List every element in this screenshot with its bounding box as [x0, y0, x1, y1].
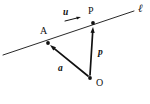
point-label-a: A	[40, 26, 47, 36]
point-marker-o	[88, 76, 92, 80]
diagram-canvas	[0, 0, 150, 104]
point-label-o: O	[96, 78, 103, 88]
vector-label-p: p	[98, 48, 103, 58]
line-ell	[3, 11, 134, 55]
vector-u-shaft	[65, 18, 78, 21]
point-label-p: P	[88, 6, 94, 16]
vector-u-arrowhead	[76, 17, 81, 20]
line-label-ell: ℓ	[138, 3, 143, 14]
vector-diagram-figure: A P O a p u ℓ	[0, 0, 150, 104]
vector-p-shaft	[90, 32, 93, 75]
vector-a-arrow	[50, 45, 88, 76]
point-marker-p	[91, 21, 95, 25]
vector-p-arrowhead	[91, 27, 95, 33]
vector-p-arrow	[90, 27, 95, 75]
vector-label-u: u	[63, 8, 68, 18]
point-marker-a	[46, 41, 50, 45]
vector-label-a: a	[58, 64, 63, 74]
